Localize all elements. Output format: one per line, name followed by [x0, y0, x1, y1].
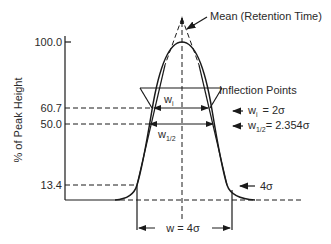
- tick-50: 50.0: [41, 118, 62, 130]
- y-axis-label: % of Peak Height: [12, 78, 24, 163]
- tick-60-7: 60.7: [41, 102, 62, 114]
- apex-marker: [180, 16, 184, 24]
- whalf-equation: w1/2= 2.354σ: [247, 119, 310, 133]
- gaussian-curve: [115, 42, 255, 200]
- base-width-label: w = 4σ: [165, 222, 200, 234]
- whalf-label: w1/2: [157, 128, 176, 142]
- tick-13-4: 13.4: [41, 179, 62, 191]
- mean-arrow: [187, 17, 207, 29]
- wi-label: wi: [163, 93, 174, 107]
- mean-label: Mean (Retention Time): [210, 10, 322, 22]
- y-axis: [65, 36, 71, 200]
- inflection-label: Inflection Points: [219, 84, 297, 96]
- gaussian-peak-diagram: % of Peak Height 100.0 60.7 50.0 13.4 wi: [0, 0, 331, 244]
- four-sigma-label: 4σ: [260, 180, 273, 192]
- wi-equation: wi= 2σ: [247, 104, 285, 118]
- tick-100: 100.0: [34, 36, 62, 48]
